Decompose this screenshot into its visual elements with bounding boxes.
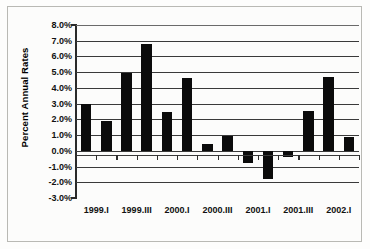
gridline [76, 41, 359, 42]
y-axis-tick-label: -3.0% [26, 193, 72, 203]
y-axis-tick-label: 2.0% [26, 114, 72, 124]
x-axis-tick [157, 155, 158, 160]
bar [162, 112, 173, 151]
gridline [76, 72, 359, 73]
chart-figure: Percent Annual Rates 8.0%7.0%6.0%5.0%4.0… [0, 0, 370, 249]
gridline [76, 182, 359, 183]
bar [323, 77, 334, 151]
x-axis-tick [238, 155, 239, 160]
bar [121, 73, 132, 151]
y-axis-tick-label: -2.0% [26, 177, 72, 187]
x-axis-ticks [76, 155, 359, 161]
y-axis-tick-label: -1.0% [26, 162, 72, 172]
gridline [76, 135, 359, 136]
gridline [76, 151, 359, 152]
x-axis-tick [359, 155, 360, 160]
x-axis-tick [137, 155, 138, 160]
x-axis-tick [339, 155, 340, 160]
y-axis-tick-label: 7.0% [26, 36, 72, 46]
x-axis-tick [116, 155, 117, 160]
x-axis-tick-label: 2000.I [165, 205, 190, 215]
gridline [76, 104, 359, 105]
bar [101, 121, 112, 151]
x-axis-tick [177, 155, 178, 160]
x-axis-tick-label: 2001.I [245, 205, 270, 215]
x-axis-tick-label: 1999.III [122, 205, 152, 215]
bar [202, 144, 213, 151]
x-axis-tick [76, 155, 77, 160]
x-axis-tick [258, 155, 259, 160]
x-axis-tick [96, 155, 97, 160]
y-axis-tick-label: 3.0% [26, 99, 72, 109]
bar [141, 44, 152, 151]
bar [344, 137, 355, 150]
y-axis-tick-labels: 8.0%7.0%6.0%5.0%4.0%3.0%2.0%1.0%0.0%-1.0… [22, 0, 72, 249]
gridline [76, 56, 359, 57]
plot-area [76, 25, 359, 198]
x-axis-tick-label: 2001.III [283, 205, 313, 215]
y-axis-tick-label: 4.0% [26, 83, 72, 93]
x-axis-tick-label: 2002.I [326, 205, 351, 215]
x-axis-tick-label: 1999.I [84, 205, 109, 215]
x-axis-tick [298, 155, 299, 160]
y-axis-tick-label: 0.0% [26, 146, 72, 156]
gridline [76, 25, 359, 26]
x-axis-tick-labels: 1999.I1999.III2000.I2000.III2001.I2001.I… [76, 205, 359, 221]
x-axis-tick [278, 155, 279, 160]
x-axis-tick [197, 155, 198, 160]
bar [222, 136, 233, 151]
x-axis-tick-label: 2000.III [202, 205, 232, 215]
gridline [76, 119, 359, 120]
bar [303, 111, 314, 151]
x-axis-tick [319, 155, 320, 160]
x-axis-tick [218, 155, 219, 160]
y-axis-tick-label: 5.0% [26, 67, 72, 77]
y-axis-tick-label: 8.0% [26, 20, 72, 30]
gridline [76, 167, 359, 168]
y-axis-tick-label: 6.0% [26, 51, 72, 61]
bar [182, 78, 193, 150]
y-axis-tick-label: 1.0% [26, 130, 72, 140]
bar [81, 104, 92, 151]
gridline [76, 88, 359, 89]
